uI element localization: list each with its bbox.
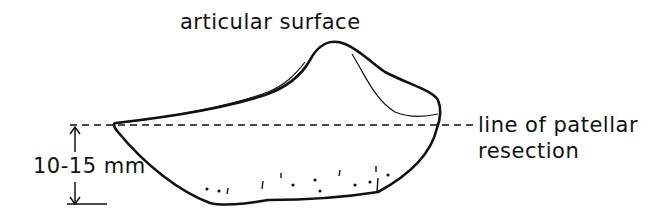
resection-line-label: line of patellar <box>478 115 638 136</box>
articular-surface-label: articular surface <box>180 12 361 33</box>
thickness-dimension-label: 10-15 mm <box>33 156 146 177</box>
patella-outline <box>114 42 440 205</box>
bone-stipple-marks <box>206 166 389 194</box>
articular-facet-line <box>352 54 438 116</box>
articular-surface-inner-line <box>120 62 305 123</box>
patella-resection-diagram: articular surface line of patellar resec… <box>0 0 667 215</box>
resection-line-label-continued: resection <box>478 141 579 162</box>
